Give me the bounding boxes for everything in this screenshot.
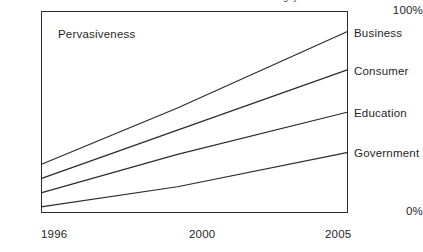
series-label-business: Business bbox=[354, 27, 402, 39]
series-line-business bbox=[41, 31, 348, 164]
series-lines bbox=[41, 11, 348, 213]
x-axis-tick-1996: 1996 bbox=[41, 228, 67, 240]
series-label-government: Government bbox=[354, 147, 419, 159]
x-axis-tick-2005: 2005 bbox=[325, 228, 351, 240]
series-line-consumer bbox=[41, 70, 348, 179]
y-axis-tick-100: 100% bbox=[385, 4, 423, 16]
series-label-education: Education bbox=[354, 107, 407, 119]
clipped-title-fragment: g y bbox=[283, 0, 299, 2]
chart-figure: g y 100% 0% 1996 2000 2005 Pervasiveness… bbox=[0, 0, 423, 252]
plot-annotation-pervasiveness: Pervasiveness bbox=[58, 28, 135, 40]
x-axis-tick-2000: 2000 bbox=[189, 228, 215, 240]
y-axis-tick-0: 0% bbox=[385, 205, 423, 217]
series-label-consumer: Consumer bbox=[354, 65, 409, 77]
